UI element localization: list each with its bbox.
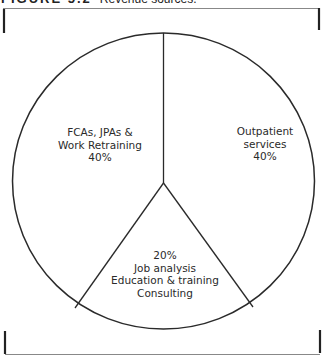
slice-label-line: Job analysis <box>100 262 230 275</box>
slice-label-fcas: FCAs, JPAs & Work Retraining 40% <box>40 126 160 164</box>
slice-label-job-analysis: 20% Job analysis Education & training Co… <box>100 249 230 299</box>
slice-label-line: Consulting <box>100 287 230 300</box>
pie-chart <box>0 0 327 358</box>
slice-percent: 40% <box>40 151 160 164</box>
slice-label-line: Outpatient <box>210 125 320 138</box>
slice-label-line: services <box>210 138 320 151</box>
slice-label-line: FCAs, JPAs & <box>40 126 160 139</box>
slice-percent: 20% <box>100 249 230 262</box>
slice-label-line: Education & training <box>100 274 230 287</box>
slice-label-line: Work Retraining <box>40 139 160 152</box>
slice-percent: 40% <box>210 150 320 163</box>
slice-label-outpatient: Outpatient services 40% <box>210 125 320 163</box>
